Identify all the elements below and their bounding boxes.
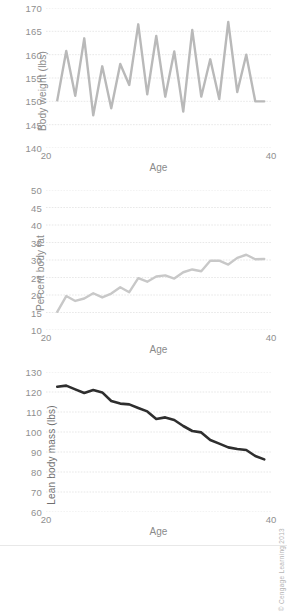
y-tick-label: 25 xyxy=(31,272,42,283)
chart2-plot-area: 20 40 Age 101520253035404550 xyxy=(46,190,271,330)
chart2-x-axis-title: Age xyxy=(150,344,168,355)
chart-panel-percent-body-fat: Percent body fat 20 40 Age 1015202530354… xyxy=(0,182,287,364)
y-tick-label: 90 xyxy=(31,447,42,458)
y-tick-label: 40 xyxy=(31,220,42,231)
copyright-credit: © Cengage Learning 2013 xyxy=(278,528,285,611)
chart2-x-tick-min: 20 xyxy=(41,332,52,343)
y-tick-label: 155 xyxy=(26,73,42,84)
chart1-x-tick-max: 40 xyxy=(266,150,277,161)
y-tick-label: 160 xyxy=(26,49,42,60)
chart3-x-tick-max: 40 xyxy=(266,514,277,525)
chart3-x-axis-title: Age xyxy=(150,526,168,537)
y-tick-label: 50 xyxy=(31,185,42,196)
y-tick-label: 60 xyxy=(31,507,42,518)
y-tick-label: 120 xyxy=(26,387,42,398)
data-series-line xyxy=(57,386,264,460)
y-tick-label: 130 xyxy=(26,367,42,378)
data-series-line xyxy=(57,255,264,312)
y-tick-label: 15 xyxy=(31,307,42,318)
y-tick-label: 165 xyxy=(26,26,42,37)
y-tick-label: 30 xyxy=(31,255,42,266)
y-tick-label: 35 xyxy=(31,237,42,248)
y-tick-label: 70 xyxy=(31,487,42,498)
chart3-x-tick-min: 20 xyxy=(41,514,52,525)
y-tick-label: 20 xyxy=(31,290,42,301)
chart1-plot-area: 20 40 Age 140145150155160165170 xyxy=(46,8,271,148)
y-tick-label: 145 xyxy=(26,119,42,130)
chart1-x-tick-min: 20 xyxy=(41,150,52,161)
chart3-line-svg xyxy=(46,372,271,512)
y-tick-label: 110 xyxy=(26,407,42,418)
y-tick-label: 80 xyxy=(31,467,42,478)
chart3-plot-area: 20 40 Age 60708090100110120130 xyxy=(46,372,271,512)
y-tick-label: 140 xyxy=(26,143,42,154)
figure-bottom-rule xyxy=(0,545,287,546)
y-tick-label: 170 xyxy=(26,3,42,14)
chart2-line-svg xyxy=(46,190,271,330)
chart-panel-body-weight: Body weight (lbs) 20 40 Age 140145150155… xyxy=(0,0,287,182)
chart-panel-lean-body-mass: Lean body mass (lbs) 20 40 Age 607080901… xyxy=(0,364,287,546)
y-tick-label: 45 xyxy=(31,202,42,213)
y-tick-label: 150 xyxy=(26,96,42,107)
y-tick-label: 10 xyxy=(31,325,42,336)
chart2-x-tick-max: 40 xyxy=(266,332,277,343)
y-tick-label: 100 xyxy=(26,427,42,438)
chart1-line-svg xyxy=(46,8,271,148)
chart1-x-axis-title: Age xyxy=(150,162,168,173)
